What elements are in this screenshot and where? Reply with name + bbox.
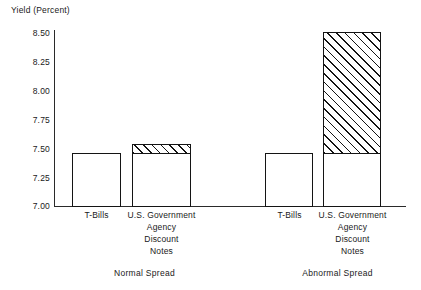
y-axis-line [54,30,55,207]
bar-abnormal-agency-spread [323,32,381,154]
bar-normal-tbills [72,153,121,207]
group-label-abnormal-spread: Abnormal Spread [272,268,403,278]
y-tick-label-8-50: 8.50 [4,29,50,38]
bar-normal-agency-body [132,153,191,207]
y-tick-label-8-25: 8.25 [4,58,50,67]
bar-abnormal-agency-body [323,153,381,207]
bar-normal-agency-spread [132,144,191,154]
bar-abnormal-tbills [265,153,313,207]
y-tick-label-7-75: 7.75 [4,116,50,125]
y-tick-label-7-00: 7.00 [4,202,50,211]
yield-spread-bar-chart: Yield (Percent) 8.50 8.25 8.00 7.75 7.50… [0,0,421,290]
y-tick-label-8-00: 8.00 [4,87,50,96]
y-axis-tick-labels: 8.50 8.25 8.00 7.75 7.50 7.25 7.00 [0,0,50,290]
y-tick-label-7-50: 7.50 [4,145,50,154]
group-label-normal-spread: Normal Spread [82,268,207,278]
y-tick-label-7-25: 7.25 [4,174,50,183]
